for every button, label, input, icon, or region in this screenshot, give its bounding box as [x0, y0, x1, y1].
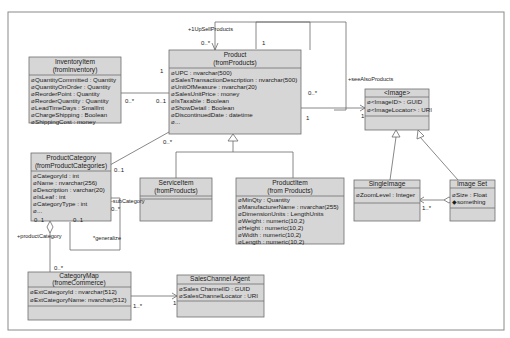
generalization-arrow-product — [228, 134, 238, 141]
multiplicity: 1..* — [133, 303, 143, 309]
attribute: ⌀Size : Float — [452, 191, 487, 198]
attribute: ⌀Weight : numeric(10,2) — [238, 217, 304, 224]
multiplicity: 0..* — [111, 206, 121, 212]
attribute: ⌀ChargeShipping : Boolean — [31, 111, 108, 118]
attribute: ⌀IsTaxable : Boolean — [171, 97, 230, 104]
multiplicity: 0..* — [54, 265, 64, 271]
seealso-role-label: +seeAlsoProducts — [348, 76, 393, 82]
realization-arrow-single — [392, 130, 400, 137]
class-inventory-item[interactable]: InventoryItem (fromInventory) ⌀QuantityC… — [29, 57, 121, 125]
generalize-role-label: *generalize — [93, 235, 121, 241]
attribute: ⌀ZoomLevel : Integer — [356, 191, 415, 198]
class-title: Product — [224, 51, 247, 58]
attribute: ⌀DimensionUnits : LengthUnits — [238, 210, 324, 217]
class-sales-channel-agent[interactable]: SalesChannel Agent ⌀Sales ChannelID : GU… — [177, 275, 264, 317]
attribute: ⌀ShippingCost : money — [31, 118, 96, 125]
attribute: ⌀Name : nvarchar(256) — [33, 179, 97, 186]
attribute: ⌀MinQty : Quantity — [238, 196, 291, 203]
class-title: ProductItem — [272, 179, 308, 186]
multiplicity: 0..* — [163, 139, 173, 145]
attribute: ⌀QuantityCommitted : Quantity — [31, 76, 117, 83]
class-title: ProductCategory — [46, 154, 96, 162]
attribute: ⌀SalesTransactionDescription : nvarchar(… — [171, 76, 297, 83]
multiplicity: 1..* — [422, 205, 432, 211]
attribute: ⌀SalesUnitPrice : money — [171, 90, 240, 97]
attribute: ◆something — [452, 198, 486, 205]
productcategory-role-label: +productCategory — [17, 233, 62, 239]
attribute: ⌀Sales ChannelID : GUID — [179, 285, 251, 292]
singleimage-realization — [390, 137, 396, 180]
attribute: ⌀Description : varchar(20) — [33, 186, 105, 193]
attribute: ⌀<ImageLocator> : URI — [367, 106, 432, 113]
class-package: (fromProducts) — [154, 187, 198, 195]
attribute: ⌀... — [171, 118, 180, 125]
attribute: ⌀Height : numeric(10,2) — [238, 224, 303, 231]
subcategory-role-label: -subCategory — [111, 198, 145, 204]
multiplicity: 0..* — [308, 90, 318, 96]
attribute: ⌀ExtCategoryName: nvarchar(512) — [30, 296, 127, 303]
upsell-role-label: +1UpSellProducts — [188, 26, 233, 32]
attribute: ⌀IsLeaf : int — [33, 193, 66, 200]
imageset-realization — [420, 137, 458, 180]
class-title: SingleImage — [369, 180, 406, 188]
attribute: ⌀Width : numeric(10,2) — [238, 231, 301, 238]
class-service-item[interactable]: ServiceItem (fromProducts) — [140, 178, 212, 221]
attribute: ⌀ManufacturerName : nvarchar(255) — [238, 203, 339, 210]
class-title: InventoryItem — [55, 58, 95, 66]
attribute: ⌀ReorderQuantity : Quantity — [31, 97, 110, 104]
multiplicity: 1 — [306, 115, 310, 121]
class-image-set[interactable]: Image Set ⌀Size : Float ◆something — [450, 180, 495, 221]
class-product-category[interactable]: ProductCategory (fromProductCategories) … — [31, 153, 111, 221]
class-package: (fromeCommerce) — [52, 279, 106, 287]
attribute: ⌀CategoryType : int — [33, 200, 87, 207]
class-product-item[interactable]: ProductItem (from Products) ⌀MinQty : Qu… — [236, 178, 344, 245]
multiplicity: 0..1 — [114, 167, 125, 173]
multiplicity: 1 — [173, 300, 177, 306]
attribute: ⌀... — [33, 207, 42, 214]
attribute: ⌀UnitOfMeasure : nvarchar(20) — [171, 83, 257, 90]
uml-diagram: InventoryItem (fromInventory) ⌀QuantityC… — [0, 0, 510, 338]
class-title: Image Set — [457, 180, 487, 188]
class-single-image[interactable]: SingleImage ⌀ZoomLevel : Integer — [354, 180, 420, 221]
class-category-map[interactable]: CategoryMap (fromeCommerce) ⌀ExtCategory… — [28, 272, 131, 320]
attribute: ⌀LeadTimeDays : SmallInt — [31, 104, 104, 111]
aggregation-diamond — [47, 221, 53, 233]
multiplicity: 0..* — [201, 40, 211, 46]
attribute: ⌀QuantityOnOrder : Quantity — [31, 83, 111, 90]
multiplicity: 0..1 — [73, 217, 84, 223]
class-product[interactable]: Product (fromProducts) ⌀UPC : nvarchar(5… — [169, 50, 301, 134]
generalization-branches — [176, 152, 293, 178]
realization-arrow-set — [417, 130, 424, 139]
multiplicity: 0..1 — [156, 98, 167, 104]
attribute: ⌀Length : numeric(10,2) — [238, 238, 304, 245]
class-package: (from Products) — [267, 187, 312, 195]
attribute: ⌀UPC : nvarchar(500) — [171, 69, 232, 76]
multiplicity: 1 — [262, 40, 266, 46]
attribute: ⌀ExtCategoryId : nvarchar(512) — [30, 288, 117, 295]
multiplicity: 0..1 — [34, 217, 45, 223]
class-image[interactable]: <Image> ⌀<ImageID> : GUID ⌀<ImageLocator… — [365, 89, 432, 130]
multiplicity: 1 — [160, 68, 164, 74]
attribute: ⌀DiscontinuedDate : datetime — [171, 111, 253, 118]
class-package: (fromProductCategories) — [35, 162, 107, 170]
multiplicity: 1 — [361, 113, 365, 119]
attribute: ⌀ShowDetail : Boolean — [171, 104, 235, 111]
class-title: <Image> — [384, 89, 410, 97]
category-product-association — [110, 132, 169, 165]
class-package: (fromInventory) — [53, 66, 98, 74]
class-title: SalesChannel Agent — [190, 275, 250, 283]
class-title: ServiceItem — [159, 179, 194, 186]
attribute: ⌀CategoryId : int — [33, 172, 79, 179]
multiplicity: 0..* — [125, 98, 135, 104]
attribute: ⌀<ImageID> : GUID — [367, 98, 423, 105]
class-package: (fromProducts) — [213, 59, 257, 67]
attribute: ⌀ReorderPoint : Quantity — [31, 90, 101, 97]
attribute: ⌀SalesChannelLocator : URI — [179, 292, 258, 299]
